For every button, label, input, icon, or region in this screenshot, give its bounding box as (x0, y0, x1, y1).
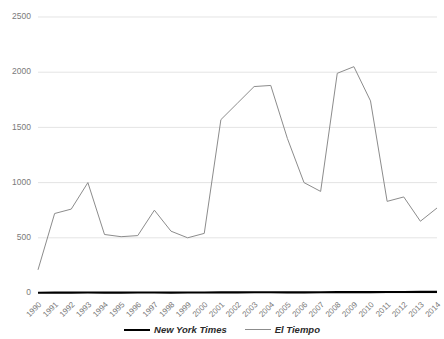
x-axis-tick-label: 1993 (74, 300, 93, 319)
x-axis-tick-label: 2010 (357, 300, 376, 319)
x-axis-tick-label: 1998 (157, 300, 176, 319)
series-group (38, 67, 437, 293)
x-axis-tick-label: 2007 (307, 300, 326, 319)
x-axis-tick-label: 1990 (24, 300, 43, 319)
y-axis-tick-labels: 05001000150020002500 (12, 11, 31, 297)
series-line-el-tiempo (38, 67, 437, 270)
x-axis-tick-label: 2006 (290, 300, 309, 319)
y-axis-tick-label: 2500 (12, 11, 31, 21)
chart-legend: New York Times El Tiempo (0, 324, 444, 335)
x-axis-tick-label: 1994 (91, 300, 110, 319)
x-axis-tick-label: 2008 (324, 300, 343, 319)
x-axis-tick-label: 2013 (407, 300, 426, 319)
legend-swatch-new-york-times (124, 329, 150, 331)
x-axis-tick-label: 2005 (274, 300, 293, 319)
legend-label-new-york-times: New York Times (154, 324, 227, 335)
legend-entry-new-york-times: New York Times (124, 324, 227, 335)
x-axis-tick-label: 2014 (423, 300, 442, 319)
x-axis-tick-label: 2009 (340, 300, 359, 319)
x-axis-tick-label: 2003 (241, 300, 260, 319)
legend-swatch-el-tiempo (245, 329, 271, 330)
x-axis-tick-label: 2001 (207, 300, 226, 319)
x-axis-tick-label: 1997 (141, 300, 160, 319)
line-chart: 05001000150020002500 1990199119921993199… (0, 0, 444, 339)
x-axis-tick-label: 1996 (124, 300, 143, 319)
series-line-new-york-times (38, 292, 437, 293)
x-axis-tick-label: 1999 (174, 300, 193, 319)
x-axis-tick-label: 1995 (108, 300, 127, 319)
x-axis-tick-label: 1991 (41, 300, 60, 319)
x-axis-tick-label: 2004 (257, 300, 276, 319)
x-axis-tick-label: 2012 (390, 300, 409, 319)
y-axis-tick-label: 1500 (12, 122, 31, 132)
y-axis-tick-label: 500 (17, 232, 31, 242)
x-axis-tick-label: 1992 (58, 300, 77, 319)
x-axis-tick-label: 2000 (191, 300, 210, 319)
legend-entry-el-tiempo: El Tiempo (245, 324, 320, 335)
x-axis-tick-labels: 1990199119921993199419951996199719981999… (24, 300, 442, 319)
legend-label-el-tiempo: El Tiempo (275, 324, 320, 335)
y-axis-tick-label: 0 (26, 287, 31, 297)
y-axis-tick-label: 2000 (12, 66, 31, 76)
chart-canvas: 05001000150020002500 1990199119921993199… (0, 0, 444, 339)
gridlines-group (38, 17, 437, 293)
x-axis-tick-label: 2002 (224, 300, 243, 319)
y-axis-tick-label: 1000 (12, 177, 31, 187)
x-axis-tick-label: 2011 (374, 300, 393, 319)
